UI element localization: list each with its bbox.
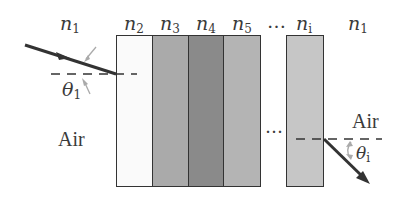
incident-ray: [25, 45, 116, 74]
theta-1-label: θ1: [62, 80, 81, 101]
rays-and-normals: [0, 0, 397, 221]
theta-i-label: θi: [356, 145, 370, 164]
optics-diagram: n1 n2 n3 n4 n5 … ni n1 … Air Air θ1 θi: [0, 0, 397, 221]
